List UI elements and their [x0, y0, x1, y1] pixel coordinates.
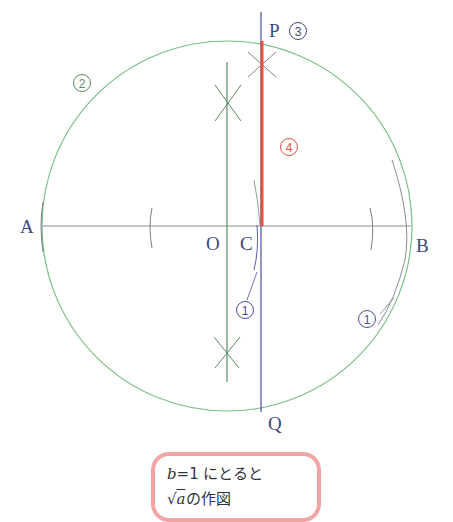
step-1-badge-left: 1 — [237, 302, 254, 319]
svg-text:4: 4 — [286, 141, 293, 155]
step-1-badge-right: 1 — [359, 311, 376, 328]
note-line1-text: =1 にとると — [177, 465, 264, 483]
label-a: A — [20, 216, 34, 237]
bisector-cross-top — [215, 85, 241, 121]
label-q: Q — [268, 413, 282, 434]
label-p: P — [269, 20, 280, 41]
note-line2-text: の作図 — [186, 490, 231, 508]
note-var-b: b — [167, 465, 177, 483]
step-2-badge: 2 — [74, 75, 91, 92]
svg-text:3: 3 — [295, 25, 302, 39]
step-4-badge: 4 — [281, 139, 298, 156]
step-3-badge: 3 — [290, 23, 307, 40]
arc-near-c — [254, 225, 258, 270]
leader-step1-right — [380, 298, 394, 314]
label-c: C — [240, 233, 253, 254]
arc-near-c-upper — [254, 180, 260, 225]
note-var-a: a — [177, 490, 186, 508]
label-b: B — [416, 235, 429, 256]
note-line-1: b=1 にとると — [167, 462, 307, 487]
arc-right — [370, 208, 373, 250]
sqrt-symbol: √ — [167, 490, 177, 508]
arc-left — [150, 208, 152, 248]
caption-note: b=1 にとると √aの作図 — [151, 452, 321, 522]
svg-text:1: 1 — [242, 304, 249, 318]
label-o: O — [206, 233, 220, 254]
note-line-2: √aの作図 — [167, 487, 307, 512]
leader-step1-left — [247, 272, 257, 300]
svg-text:1: 1 — [364, 313, 371, 327]
svg-text:2: 2 — [79, 77, 86, 91]
